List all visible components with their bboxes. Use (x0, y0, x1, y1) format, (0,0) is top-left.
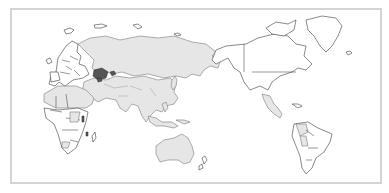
region-greenland (306, 16, 352, 55)
arctic-islands (64, 24, 181, 36)
region-north-america (212, 20, 312, 90)
world-map (0, 0, 389, 193)
region-africa (44, 86, 96, 154)
region-japan (171, 76, 177, 90)
region-new-zealand (199, 156, 207, 170)
region-central-america (262, 94, 302, 118)
region-asia-south (82, 76, 178, 122)
region-australia (156, 134, 194, 164)
region-south-america (292, 122, 332, 174)
